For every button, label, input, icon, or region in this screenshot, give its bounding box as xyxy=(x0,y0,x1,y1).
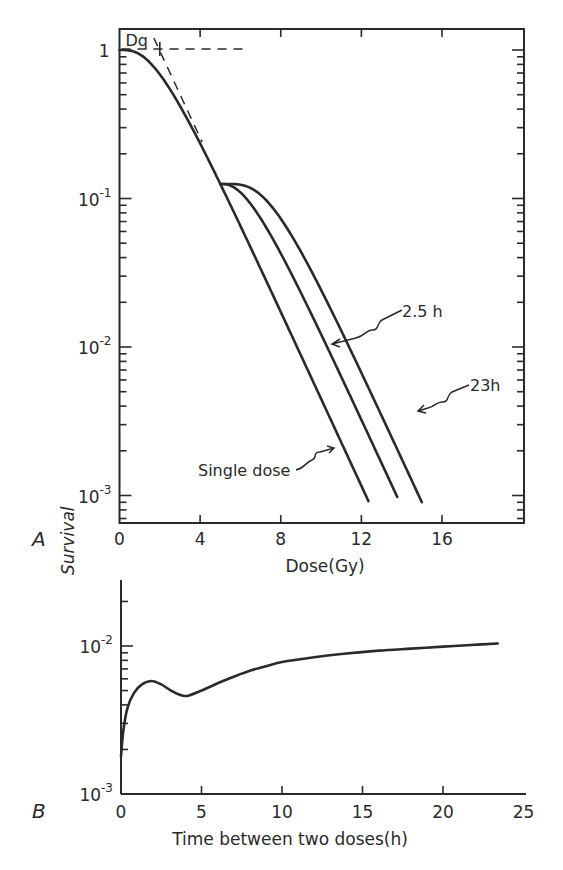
x-tick-label: 0 xyxy=(114,529,125,549)
panel-a-annotations: Dq Single dose 2.5 h 23h xyxy=(122,31,501,480)
extrapolation-line xyxy=(154,38,202,142)
x-tick-label: 5 xyxy=(196,802,207,822)
x-tick-label: 20 xyxy=(432,802,454,822)
panel-b-chart: 051015202510-210-3 Time between two dose… xyxy=(32,580,534,849)
x-tick-label: 10 xyxy=(271,802,293,822)
panel-b-ticks xyxy=(121,601,443,794)
y-tick-label: 10-2 xyxy=(78,334,112,358)
x-tick-label: 8 xyxy=(275,529,286,549)
x-tick-label: 12 xyxy=(351,529,373,549)
panel-a-label: A xyxy=(30,527,46,551)
panel-a-x-axis-label: Dose(Gy) xyxy=(285,556,364,576)
x-tick-label: 0 xyxy=(116,802,127,822)
y-tick-label: 10-1 xyxy=(78,186,112,210)
x-tick-label: 16 xyxy=(431,529,453,549)
panel-a-frame xyxy=(120,29,525,523)
curve-2-5h xyxy=(220,184,397,497)
panel-a-ticks xyxy=(120,29,525,523)
single-dose-label: Single dose xyxy=(198,461,290,480)
y-tick-label: 1 xyxy=(99,41,110,61)
panel-a-curves xyxy=(120,50,422,502)
dq-label: Dq xyxy=(126,31,148,50)
x-tick-label: 25 xyxy=(513,802,535,822)
y-axis-label-survival: Survival xyxy=(58,506,78,575)
label-23h: 23h xyxy=(470,376,501,395)
panel-b-label: B xyxy=(32,799,46,823)
y-tick-label: 10-3 xyxy=(79,781,113,805)
arrow-2-5h xyxy=(332,310,402,347)
curve-23h xyxy=(220,184,422,502)
single-dose-arrow xyxy=(296,446,334,470)
label-2-5h: 2.5 h xyxy=(402,302,443,321)
panel-b-x-axis-label: Time between two doses(h) xyxy=(171,829,408,849)
curve-single-dose xyxy=(120,50,369,501)
x-tick-label: 15 xyxy=(352,802,374,822)
panel-a-chart: 0481216110-110-210-3 Dq Single dose 2.5 … xyxy=(30,29,524,576)
y-tick-label: 10-2 xyxy=(79,633,113,657)
arrow-23h xyxy=(418,385,469,413)
x-tick-label: 4 xyxy=(195,529,206,549)
figure: 0481216110-110-210-3 Dq Single dose 2.5 … xyxy=(0,0,563,870)
panel-b-survival-curve xyxy=(121,643,498,756)
y-tick-label: 10-3 xyxy=(78,483,112,507)
